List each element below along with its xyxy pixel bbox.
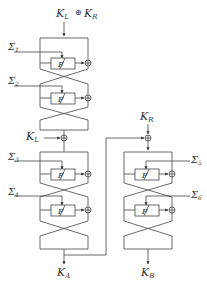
sigma-5-label: Σ5 <box>190 154 202 166</box>
sigma-1-label: Σ1 <box>7 41 19 53</box>
svg-text:KL: KL <box>55 7 69 21</box>
right-feistel-block <box>124 152 190 249</box>
sigma-4-label: Σ4 <box>7 186 19 198</box>
svg-text:F: F <box>141 207 148 216</box>
key-schedule-diagram: KL ⊕ KR Σ <box>0 0 207 287</box>
svg-text:F: F <box>57 171 64 180</box>
svg-text:F: F <box>57 207 64 216</box>
svg-text:F: F <box>57 60 64 69</box>
svg-text:KR: KR <box>83 7 98 21</box>
kb-label: KB <box>140 266 154 280</box>
sigma-2-label: Σ2 <box>7 75 19 87</box>
kr-label: KR <box>139 110 154 124</box>
left-feistel-block-1 <box>14 38 91 130</box>
svg-text:F: F <box>57 95 64 104</box>
ka-feedback-line <box>64 138 144 255</box>
input-kl-xor-kr-label: KL ⊕ KR <box>55 7 98 21</box>
svg-text:⊕: ⊕ <box>75 8 82 17</box>
svg-text:F: F <box>141 171 148 180</box>
left-feistel-block-2 <box>14 152 91 249</box>
sigma-6-label: Σ6 <box>190 189 202 201</box>
kl-label: KL <box>25 130 39 144</box>
ka-label: KA <box>56 266 70 280</box>
sigma-3-label: Σ3 <box>7 151 19 163</box>
